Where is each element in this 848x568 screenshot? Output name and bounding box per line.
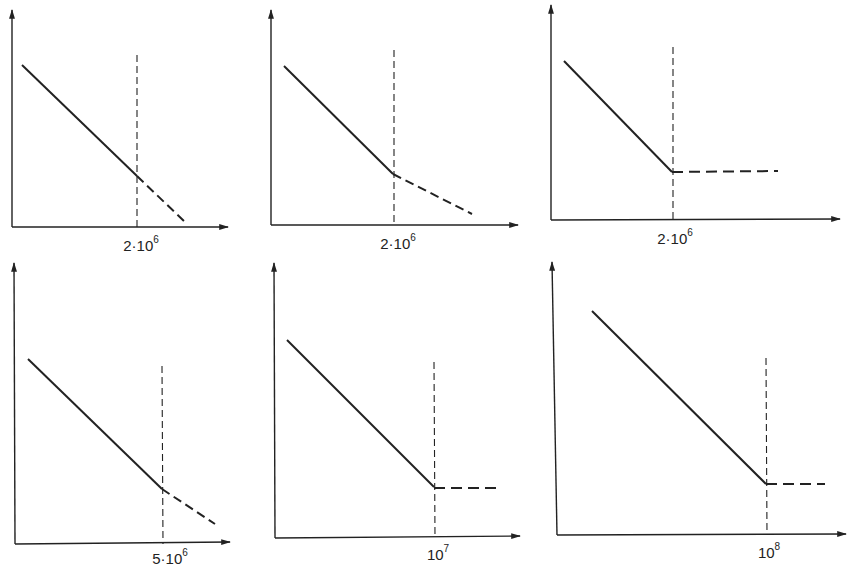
panel-1 — [12, 10, 228, 227]
dashed-extension — [137, 176, 185, 222]
x-tick-label-panel-4: 5·106 — [152, 549, 188, 567]
panel-6 — [552, 262, 846, 535]
y-axis — [274, 263, 275, 538]
y-axis — [14, 263, 15, 544]
x-axis — [557, 534, 846, 535]
solid-curve — [287, 340, 434, 487]
figure-canvas — [0, 0, 848, 568]
solid-curve — [592, 311, 766, 484]
dashed-extension — [393, 174, 472, 214]
x-tick-label-panel-3: 2·106 — [657, 229, 693, 247]
dashed-extension — [672, 171, 778, 172]
solid-curve — [564, 61, 672, 172]
x-axis — [275, 536, 520, 538]
panel-5 — [274, 263, 520, 538]
x-tick-label-panel-5: 107 — [427, 545, 449, 563]
x-axis — [15, 542, 230, 544]
x-axis — [551, 219, 840, 220]
y-axis — [552, 262, 557, 535]
knee-marker-line — [766, 358, 767, 535]
knee-marker-line — [162, 366, 163, 544]
panel-3 — [551, 5, 840, 220]
x-tick-label-panel-1: 2·106 — [123, 236, 159, 254]
solid-curve — [28, 359, 162, 489]
x-tick-label-panel-2: 2·106 — [380, 234, 416, 252]
knee-marker-line — [434, 362, 435, 538]
x-tick-label-panel-6: 108 — [758, 543, 780, 561]
solid-curve — [284, 66, 393, 174]
panel-4 — [14, 263, 230, 544]
panel-2 — [271, 10, 518, 225]
solid-curve — [22, 65, 137, 176]
dashed-extension — [162, 489, 215, 524]
